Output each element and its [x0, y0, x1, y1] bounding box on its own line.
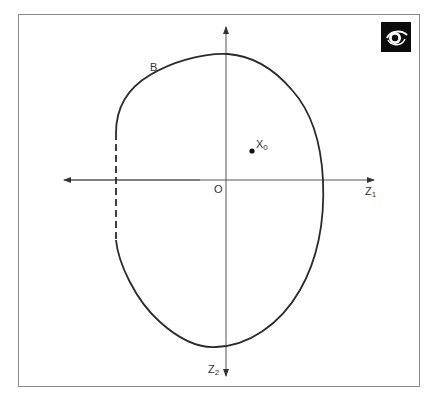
z2-axis-label: Z2: [208, 364, 219, 377]
z2-label-sub: 2: [215, 368, 219, 377]
curve-label-b: B: [150, 62, 157, 73]
z1-axis-label: Z1: [365, 186, 376, 199]
z1-label-sub: 1: [372, 190, 376, 199]
diagram-canvas: [0, 0, 436, 405]
point-label-sub: 0: [263, 143, 267, 152]
point-x0: [249, 148, 254, 153]
point-x0-label: X0: [256, 139, 268, 152]
z2-label-main: Z: [208, 363, 215, 375]
eye-icon: [381, 22, 411, 52]
boundary-curve-b: [116, 54, 323, 347]
z1-label-main: Z: [365, 185, 372, 197]
origin-label: O: [214, 184, 223, 195]
